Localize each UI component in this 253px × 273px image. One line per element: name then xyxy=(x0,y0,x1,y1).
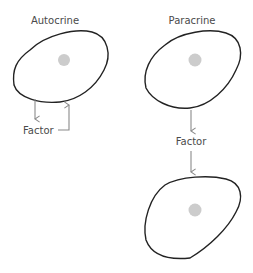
paracrine-source-cell xyxy=(145,31,241,108)
autocrine-nucleus xyxy=(58,54,70,66)
paracrine-title: Paracrine xyxy=(169,15,216,26)
autocrine-panel: Autocrine Factor xyxy=(14,15,108,136)
paracrine-target-cell xyxy=(145,177,241,259)
autocrine-return-arrow xyxy=(58,105,69,130)
autocrine-cell xyxy=(14,31,108,102)
paracrine-target-nucleus xyxy=(189,204,202,217)
paracrine-source-nucleus xyxy=(189,54,202,67)
signaling-diagram: Autocrine Factor Paracrine Factor xyxy=(0,0,253,273)
paracrine-factor-label: Factor xyxy=(176,136,207,147)
autocrine-title: Autocrine xyxy=(31,15,79,26)
paracrine-panel: Paracrine Factor xyxy=(145,15,241,258)
autocrine-factor-label: Factor xyxy=(23,125,54,136)
